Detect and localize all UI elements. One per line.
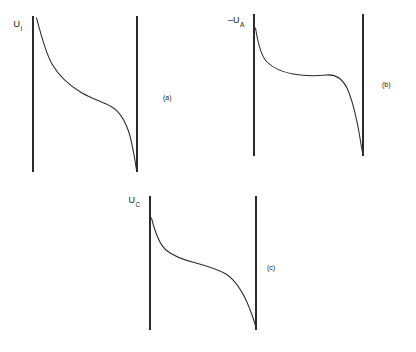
panel-a-tag: (a) xyxy=(163,94,172,101)
panel-a-plot xyxy=(0,0,208,180)
panel-a-axis-label: UI xyxy=(13,20,22,31)
panel-c-curve xyxy=(152,218,256,326)
figure-root: UI –UA UC (a) (b) (c) xyxy=(0,0,416,352)
panel-c-label-subscript: C xyxy=(136,201,141,208)
panel-a xyxy=(0,0,208,180)
panel-b-label-symbol: U xyxy=(233,15,240,25)
panel-b-label-sign: – xyxy=(228,15,233,25)
panel-a-curve xyxy=(37,18,137,170)
panel-b-curve xyxy=(256,28,363,152)
panel-c-axis-label: UC xyxy=(128,196,140,207)
panel-c-tag: (c) xyxy=(267,264,275,271)
panel-b-label-subscript: A xyxy=(240,21,244,28)
panel-c-label-symbol: U xyxy=(129,195,136,205)
panel-a-label-symbol: U xyxy=(14,19,21,29)
panel-b-tag: (b) xyxy=(382,81,391,88)
panel-b-axis-label: –UA xyxy=(228,16,244,27)
